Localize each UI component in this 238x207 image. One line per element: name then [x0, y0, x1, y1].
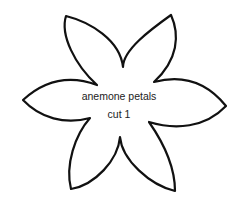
template-subtitle: cut 1 — [0, 108, 238, 120]
flower-outline — [0, 0, 238, 207]
template-title: anemone petals — [0, 90, 238, 102]
